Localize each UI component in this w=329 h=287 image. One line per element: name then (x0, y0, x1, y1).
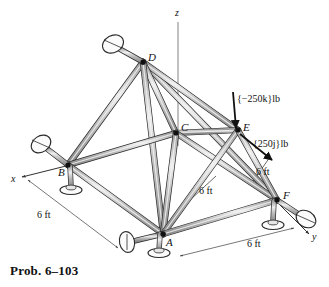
figure-page: D C B E A F x y z 6 ft 6 ft 6 ft 6 ft {−… (0, 0, 329, 287)
truss-members (68, 62, 277, 234)
joint-F (274, 197, 279, 202)
support-D-rod (99, 31, 143, 62)
node-label-E: E (242, 121, 250, 133)
force-arrow-vertical-load (233, 92, 236, 128)
space-truss-figure: D C B E A F x y z 6 ft 6 ft 6 ft 6 ft {−… (0, 0, 329, 287)
joint-E (235, 127, 240, 132)
joint-A (160, 231, 165, 236)
node-label-B: B (58, 166, 65, 178)
joint-D (140, 59, 145, 64)
member-D-B (68, 62, 143, 165)
dimension-label-a-f: 6 ft (247, 238, 261, 249)
dimension-label-c-f: 6 ft (199, 185, 213, 196)
force-label-vertical-load: {−250k}lb (237, 93, 280, 104)
axis-label-y: y (311, 231, 317, 242)
dimension-label-e-f: 6 ft (256, 166, 270, 177)
node-label-D: D (147, 51, 156, 63)
node-label-A: A (165, 236, 173, 248)
axis-label-x: x (10, 173, 16, 184)
node-label-F: F (282, 189, 290, 201)
figure-caption: Prob. 6–103 (10, 263, 78, 279)
support-B-rod (28, 131, 68, 165)
member-B-A (68, 165, 163, 234)
node-label-C: C (181, 121, 189, 133)
axis-label-z: z (174, 7, 179, 18)
force-label-lateral-load: {250j}lb (253, 138, 288, 149)
dimension-line-a-f (180, 228, 294, 256)
joint-C (173, 130, 178, 135)
joint-B (65, 162, 70, 167)
dimension-label-b-a: 6 ft (37, 209, 51, 220)
